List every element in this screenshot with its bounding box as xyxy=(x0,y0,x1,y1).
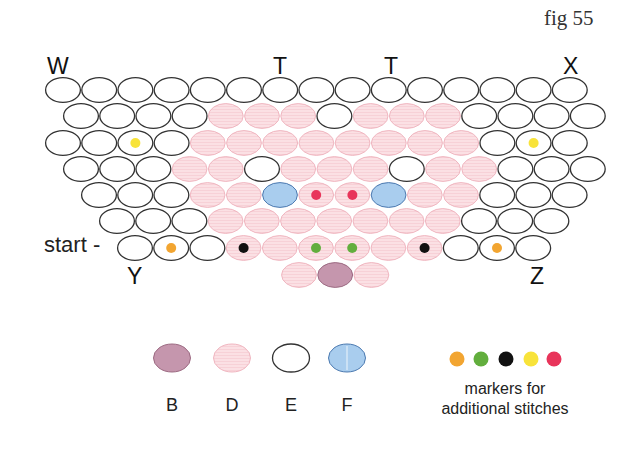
stitch-e-cell xyxy=(534,157,569,182)
stitch-d-cell xyxy=(299,131,334,156)
stitch-d-cell xyxy=(426,157,461,182)
stitch-d-cell xyxy=(281,157,316,182)
stitch-d-cell xyxy=(389,209,424,234)
orange-marker-dot xyxy=(166,243,176,253)
stitch-e-cell xyxy=(389,157,424,182)
stitch-e-cell xyxy=(534,209,569,234)
yellow-marker-dot xyxy=(529,138,539,148)
black-marker-dot xyxy=(239,243,249,253)
stitch-e-cell xyxy=(516,236,551,261)
stitch-d-cell xyxy=(426,104,461,129)
stitch-d-cell xyxy=(335,131,370,156)
stitch-e-cell xyxy=(462,209,497,234)
stitch-e-cell xyxy=(516,78,551,103)
stitch-d-cell xyxy=(462,157,497,182)
stitch-e-cell xyxy=(408,78,443,103)
stitch-e-cell xyxy=(190,236,225,261)
stitch-d-cell xyxy=(407,183,442,208)
stitch-d-cell xyxy=(281,104,316,129)
stitch-d-cell xyxy=(281,209,316,234)
stitch-f-cell xyxy=(371,183,406,208)
stitch-grid xyxy=(46,78,606,288)
stitch-d-cell xyxy=(263,131,298,156)
stitch-e-cell xyxy=(335,78,370,103)
legend-swatch-b xyxy=(154,344,191,372)
legend-marker-yellow xyxy=(524,352,539,367)
label-t-right: T xyxy=(384,55,398,78)
stitch-d-cell xyxy=(208,157,243,182)
stitch-e-cell xyxy=(263,78,298,103)
stitch-e-cell xyxy=(552,131,587,156)
legend-label-e: E xyxy=(271,396,311,414)
stitch-e-cell xyxy=(172,209,207,234)
stitch-e-cell xyxy=(136,209,171,234)
stitch-e-cell xyxy=(172,104,207,129)
stitch-d-cell xyxy=(425,209,460,234)
stitch-e-cell xyxy=(82,183,117,208)
stitch-d-cell xyxy=(244,209,279,234)
stitch-b-cell xyxy=(318,263,353,288)
stitch-e-cell xyxy=(100,104,135,129)
legend-marker-orange xyxy=(450,352,465,367)
stitch-e-cell xyxy=(154,78,189,103)
stitch-d-cell xyxy=(245,104,280,129)
stitch-e-cell xyxy=(480,131,515,156)
legend-marker-red xyxy=(547,352,562,367)
stitch-d-cell xyxy=(353,157,388,182)
stitch-d-cell xyxy=(317,157,352,182)
label-w: W xyxy=(47,55,69,78)
legend-label-b: B xyxy=(152,396,192,414)
stitch-e-cell xyxy=(154,131,189,156)
stitch-d-cell xyxy=(353,104,388,129)
markers-caption-line2: additional stitches xyxy=(410,399,600,419)
stitch-e-cell xyxy=(82,131,117,156)
green-marker-dot xyxy=(311,243,321,253)
stitch-e-cell xyxy=(371,78,406,103)
stitch-d-cell xyxy=(353,209,388,234)
stitch-e-cell xyxy=(570,157,605,182)
stitch-d-cell xyxy=(317,209,352,234)
label-z: Z xyxy=(530,265,544,288)
legend-swatch-d xyxy=(214,344,251,372)
stitch-e-cell xyxy=(245,157,280,182)
stitch-d-cell xyxy=(172,157,207,182)
stitch-f-cell xyxy=(263,183,298,208)
red-marker-dot xyxy=(311,190,321,200)
legend xyxy=(154,344,562,372)
stitch-e-cell xyxy=(118,78,153,103)
stitch-e-cell xyxy=(570,104,605,129)
stitch-d-cell xyxy=(444,131,479,156)
stitch-e-cell xyxy=(190,78,225,103)
legend-marker-green xyxy=(474,352,489,367)
stitch-e-cell xyxy=(299,78,334,103)
stitch-e-cell xyxy=(552,183,587,208)
legend-label-d: D xyxy=(212,396,252,414)
markers-caption-line1: markers for xyxy=(410,379,600,399)
stitch-e-cell xyxy=(64,157,99,182)
markers-caption: markers for additional stitches xyxy=(410,379,600,419)
stitch-e-cell xyxy=(100,157,135,182)
red-marker-dot xyxy=(347,190,357,200)
figure-title: fig 55 xyxy=(544,6,594,31)
stitch-d-cell xyxy=(444,183,479,208)
stitch-d-cell xyxy=(208,104,243,129)
stitch-d-cell xyxy=(371,236,406,261)
orange-marker-dot xyxy=(492,243,502,253)
stitch-d-cell xyxy=(227,131,262,156)
stitch-d-cell xyxy=(371,131,406,156)
stitch-d-cell xyxy=(282,263,317,288)
stitch-d-cell xyxy=(190,183,225,208)
green-marker-dot xyxy=(347,243,357,253)
stitch-e-cell xyxy=(227,78,262,103)
yellow-marker-dot xyxy=(130,138,140,148)
stitch-e-cell xyxy=(516,183,551,208)
stitch-e-cell xyxy=(443,236,478,261)
stitch-e-cell xyxy=(82,78,117,103)
stitch-e-cell xyxy=(136,104,171,129)
stitch-e-cell xyxy=(317,104,352,129)
black-marker-dot xyxy=(420,243,430,253)
stitch-e-cell xyxy=(118,236,153,261)
stitch-e-cell xyxy=(46,78,81,103)
label-y: Y xyxy=(127,265,142,288)
stitch-e-cell xyxy=(552,78,587,103)
